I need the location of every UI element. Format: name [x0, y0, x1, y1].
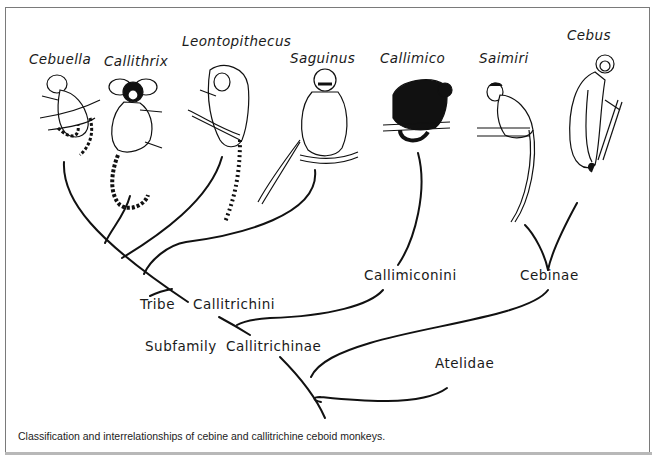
atelidae-label: Atelidae: [435, 355, 494, 371]
subfamily-prefix-label: Subfamily: [145, 338, 217, 354]
callithrix-illustration: [109, 79, 162, 208]
genus-label-cebus: Cebus: [567, 27, 611, 43]
figure-caption: Classification and interrelationships of…: [18, 430, 385, 442]
genus-label-saimiri: Saimiri: [479, 50, 529, 66]
cebuella-illustration: [40, 75, 100, 155]
branch-cebuella: [64, 162, 188, 302]
genus-label-callithrix: Callithrix: [104, 53, 168, 69]
saguinus-illustration: [258, 69, 358, 204]
branch-callimico: [398, 153, 421, 265]
saimiri-illustration: [477, 83, 534, 222]
branch-saimiri: [525, 225, 548, 270]
genus-label-callimico: Callimico: [380, 50, 445, 66]
genus-label-cebuella: Cebuella: [29, 51, 91, 67]
branch-callitrichini-to-subfamily: [219, 317, 250, 335]
branch-cebus: [548, 203, 577, 270]
tribe-callitrichini-label: Callitrichini: [193, 296, 275, 312]
branch-saguinus: [144, 170, 315, 274]
branch-callithrix: [105, 196, 130, 243]
branch-tribe-tick: [150, 289, 172, 296]
branch-leontopithecus: [122, 157, 222, 258]
branch-cebinae: [311, 290, 548, 377]
tribe-prefix-label: Tribe: [140, 296, 175, 312]
genus-label-saguinus: Saguinus: [290, 50, 355, 66]
cebus-illustration: [570, 55, 622, 172]
genus-label-leontopithecus: Leontopithecus: [182, 33, 291, 49]
callimiconini-label: Callimiconini: [364, 267, 457, 283]
branch-atelidae: [315, 388, 448, 402]
phylogeny-diagram: [0, 0, 657, 462]
callimico-illustration: [383, 80, 452, 141]
cebinae-label: Cebinae: [520, 267, 579, 283]
subfamily-callitrichinae-label: Callitrichinae: [226, 338, 321, 354]
